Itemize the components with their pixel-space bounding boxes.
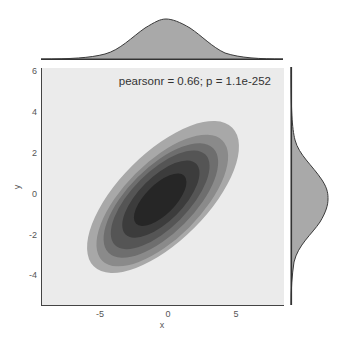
marginal-y-fill [291, 67, 328, 305]
x-tick-0: 0 [165, 309, 170, 319]
x-tick-neg5: -5 [96, 309, 104, 319]
y-tick-6: 6 [32, 66, 37, 76]
marginal-x-fill [41, 19, 283, 59]
marginal-x-kde [41, 19, 283, 60]
marginal-y-kde [291, 67, 328, 305]
y-tick-0: 0 [32, 189, 37, 199]
pearsonr-annotation: pearsonr = 0.66; p = 1.1e-252 [119, 75, 271, 87]
y-axis-label: y [12, 184, 22, 189]
x-axis-label: x [160, 320, 165, 330]
y-tick-neg2: -2 [29, 230, 37, 240]
x-tick-5: 5 [233, 309, 238, 319]
jointplot: 6 4 2 0 -2 -4 -5 0 5 x y pearsonr = 0.66… [0, 0, 342, 344]
y-tick-4: 4 [32, 107, 37, 117]
y-tick-neg4: -4 [29, 270, 37, 280]
y-tick-2: 2 [32, 148, 37, 158]
